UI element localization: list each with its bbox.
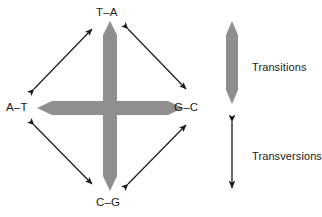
node-label-top: T–A (96, 6, 118, 18)
legend-transitions-swatch (226, 21, 238, 104)
transversion-arrow-top-right (128, 29, 186, 89)
node-label-bottom: C–G (96, 196, 120, 208)
transversion-arrow-bottom-right (128, 125, 186, 184)
legend-label-transitions: Transitions (252, 61, 307, 73)
node-label-left: A–T (6, 101, 28, 113)
transition-arrow-horizontal (37, 101, 183, 115)
legend-label-transversions: Transversions (252, 150, 322, 162)
transversion-arrow-top-left (34, 29, 92, 89)
node-label-right: G–C (174, 101, 198, 113)
diagram-canvas (0, 0, 322, 217)
transversion-arrow-bottom-left (34, 125, 92, 184)
substitution-types-diagram: T–A A–T G–C C–G Transitions Transversion… (0, 0, 322, 217)
